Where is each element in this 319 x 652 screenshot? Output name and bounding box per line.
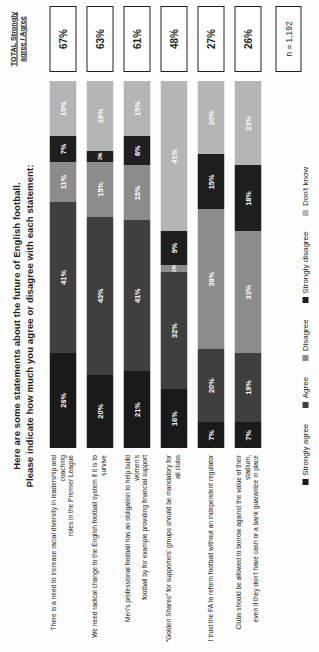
bar-segment: 15% (123, 165, 150, 220)
statement-label-line: Clubs should be allowed to borrow agains… (234, 455, 251, 644)
stacked-bar: 7%20%38%15%20% (197, 81, 224, 448)
legend-swatch-icon (302, 479, 308, 485)
legend-swatch-icon (302, 402, 308, 408)
statement-label: Clubs should be allowed to borrow agains… (234, 448, 260, 644)
legend-item: Agree (300, 377, 309, 408)
legend-item: Strongly agree (300, 424, 309, 486)
bar-segment: 7% (234, 422, 261, 448)
bar-segment: 15% (123, 81, 150, 136)
bar-segment: 2% (160, 265, 187, 272)
bar-segment: 26% (49, 353, 76, 448)
total-column-header: TOTAL Strongly agree / Agree (8, 6, 26, 72)
stacked-bar-plot: There is a need to increase racial diver… (47, 6, 275, 644)
statement-label-line: roles in the Premier League (66, 455, 75, 644)
bar-segment: 20% (197, 349, 224, 422)
stacked-bar: 7%19%33%18%23% (234, 81, 261, 448)
stacked-bar: 26%41%11%7%15% (49, 81, 76, 448)
chart-canvas: Here are some statements about the futur… (0, 0, 319, 652)
legend-item: Disagree (300, 319, 309, 361)
statement-label: There is a need to increase racial diver… (49, 448, 75, 644)
statement-label-line: even if they don’t have cash or a bank g… (251, 455, 260, 644)
statement-label-line: Men's professional football has an oblig… (123, 455, 140, 644)
total-agree-box: 26% (234, 6, 261, 72)
bar-segment: 20% (86, 375, 113, 448)
bar-segment: 15% (197, 154, 224, 209)
bar-segment: 41% (160, 81, 187, 231)
chart-row: There is a need to increase racial diver… (47, 6, 77, 644)
total-agree-box: 67% (49, 6, 76, 72)
legend-swatch-icon (302, 297, 308, 303)
legend-item: Strongly disagree (300, 232, 309, 304)
total-agree-box: 48% (160, 6, 187, 72)
chart-row: I trust the FA to reform football withou… (195, 6, 225, 644)
bar-segment: 19% (86, 81, 113, 151)
legend-swatch-icon (302, 210, 308, 216)
total-agree-box: 27% (197, 6, 224, 72)
bar-segment: 11% (49, 162, 76, 202)
total-agree-box: 63% (86, 6, 113, 72)
bar-segment: 23% (234, 81, 261, 165)
bar-segment: 19% (234, 353, 261, 423)
bar-segment: 21% (123, 371, 150, 448)
statement-label-line: I trust the FA to reform football withou… (206, 455, 215, 644)
bar-segment: 38% (197, 209, 224, 348)
chart-legend: Strongly agreeAgreeDisagreeStrongly disa… (300, 0, 309, 652)
bar-segment: 18% (234, 165, 261, 231)
stacked-bar: 21%41%15%8%15% (123, 81, 150, 448)
bar-segment: 9% (160, 232, 187, 265)
statement-label-line: There is a need to increase racial diver… (49, 455, 66, 644)
statement-label: I trust the FA to reform football withou… (206, 448, 215, 644)
bar-segment: 15% (49, 81, 76, 136)
bar-segment: 33% (234, 231, 261, 352)
statement-label-line: We need radical change to the English fo… (90, 455, 107, 644)
bar-segment: 41% (49, 202, 76, 352)
chart-row: Men's professional football has an oblig… (121, 6, 151, 644)
legend-label: Agree (300, 377, 309, 398)
chart-row: “Golden Shares” for supporters’ groups s… (158, 6, 188, 644)
bar-segment: 3% (86, 151, 113, 162)
chart-title-line-1: Here are some statements about the futur… (10, 0, 23, 652)
total-agree-box: 61% (123, 6, 150, 72)
chart-title-line-2: Please indicate how much you agree or di… (23, 0, 36, 652)
statement-label: Men's professional football has an oblig… (123, 448, 149, 644)
bar-segment: 20% (197, 81, 224, 154)
bar-segment: 15% (86, 162, 113, 217)
bar-segment: 16% (160, 389, 187, 448)
legend-label: Strongly disagree (300, 232, 309, 294)
sample-size-box: n = 1,192 (275, 6, 301, 72)
legend-label: Don't know (300, 167, 309, 206)
statement-label-line: “Golden Shares” for supporters’ groups s… (164, 455, 181, 644)
rotated-poster: Here are some statements about the futur… (0, 0, 319, 652)
bar-segment: 32% (160, 272, 187, 389)
bar-segment: 7% (49, 136, 76, 162)
bar-segment: 43% (86, 217, 113, 375)
statement-label-line: football by for example providing financ… (140, 455, 149, 644)
sample-size-label: n = 1,192 (283, 21, 293, 56)
stacked-bar: 20%43%15%3%19% (86, 81, 113, 448)
chart-title: Here are some statements about the futur… (10, 0, 36, 652)
chart-row: We need radical change to the English fo… (84, 6, 114, 644)
stacked-bar: 16%32%2%9%41% (160, 81, 187, 448)
bar-segment: 41% (123, 220, 150, 370)
total-column-header-line-1: TOTAL Strongly (8, 6, 17, 72)
legend-label: Strongly agree (300, 424, 309, 476)
statement-label: We need radical change to the English fo… (90, 448, 107, 644)
legend-item: Don't know (300, 167, 309, 216)
chart-row: Clubs should be allowed to borrow agains… (232, 6, 262, 644)
bar-segment: 8% (123, 136, 150, 165)
total-column-header-line-2: agree / Agree (17, 6, 26, 72)
bar-segment: 7% (197, 422, 224, 448)
legend-label: Disagree (300, 319, 309, 351)
statement-label: “Golden Shares” for supporters’ groups s… (164, 448, 181, 644)
legend-swatch-icon (302, 355, 308, 361)
